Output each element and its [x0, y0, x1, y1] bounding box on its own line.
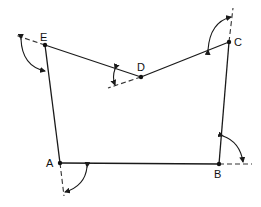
edge-bc	[219, 42, 229, 164]
vertex-e	[43, 43, 47, 47]
edge-ea	[45, 45, 60, 163]
extension-at-a	[60, 163, 64, 196]
diagram-svg: A B C D E	[0, 0, 261, 207]
vertex-b	[217, 162, 221, 166]
label-c: C	[234, 36, 242, 48]
edge-ab	[60, 163, 219, 164]
label-e: E	[40, 31, 47, 43]
vertex-d	[139, 75, 143, 79]
edge-de	[45, 45, 141, 77]
extension-at-d	[108, 77, 141, 88]
angle-arc-c	[208, 17, 231, 50]
extension-at-c	[229, 8, 233, 42]
label-b: B	[214, 168, 221, 180]
label-d: D	[137, 61, 145, 73]
label-a: A	[46, 157, 54, 169]
traverse-diagram: A B C D E	[0, 0, 261, 207]
edge-cd	[141, 42, 229, 77]
angle-arc-b	[223, 136, 243, 162]
vertex-a	[58, 161, 62, 165]
angle-arc-a	[65, 167, 87, 192]
vertex-c	[227, 40, 231, 44]
angle-arc-d	[114, 69, 116, 85]
